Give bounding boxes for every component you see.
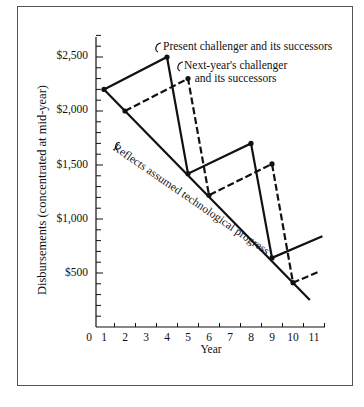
series-lines: [104, 57, 322, 300]
x-tick-2: 2: [115, 331, 135, 343]
annotation-next-year-challenger: Next-year's challenger and its successor…: [184, 59, 287, 85]
x-tick-9: 9: [262, 331, 282, 343]
annotation-present-challenger: Present challenger and its successors: [163, 40, 332, 53]
x-tick-11: 11: [304, 331, 324, 343]
x-axis-label: Year: [0, 343, 364, 355]
annotation-leaders: [116, 43, 184, 150]
x-tick-1: 1: [94, 331, 114, 343]
x-tick-10: 10: [283, 331, 303, 343]
y-tick-1000: $1,000: [38, 212, 88, 224]
annotation-next-line2: and its successors: [184, 72, 287, 85]
x-tick-5: 5: [178, 331, 198, 343]
y-tick-1500: $1,500: [38, 158, 88, 170]
x-tick-7: 7: [220, 331, 240, 343]
x-tick-6: 6: [199, 331, 219, 343]
y-tick-2500: $2,500: [38, 49, 88, 61]
y-tick-500: $500: [38, 266, 88, 278]
annotation-next-line1: Next-year's challenger: [184, 59, 287, 72]
x-tick-4: 4: [157, 331, 177, 343]
x-tick-8: 8: [241, 331, 261, 343]
y-axis-ticks: [96, 35, 103, 316]
x-tick-3: 3: [136, 331, 156, 343]
y-tick-2000: $2,000: [38, 103, 88, 115]
